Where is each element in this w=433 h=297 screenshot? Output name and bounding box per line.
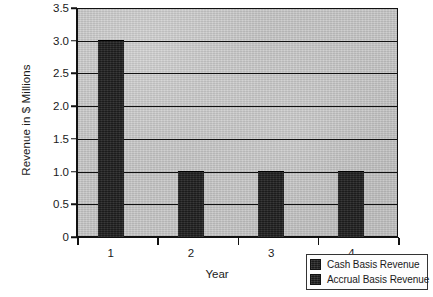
gridline xyxy=(77,73,397,74)
gridline xyxy=(77,41,397,42)
legend-swatch-icon xyxy=(310,274,321,285)
y-tick-label: 3.0 xyxy=(29,35,69,47)
legend-item: Accrual Basis Revenue xyxy=(310,272,424,287)
x-tick-mark xyxy=(318,238,320,245)
y-tick-mark xyxy=(71,73,77,75)
bar xyxy=(258,171,284,237)
y-tick-label: 0 xyxy=(29,231,69,243)
y-tick-mark xyxy=(71,105,77,107)
y-tick-label: 1.0 xyxy=(29,166,69,178)
y-tick-label: 2.5 xyxy=(29,67,69,79)
plot-area xyxy=(77,8,398,237)
y-tick-mark xyxy=(71,138,77,140)
x-tick-label: 2 xyxy=(171,247,211,259)
gridline xyxy=(77,139,397,140)
gridline xyxy=(77,8,397,9)
y-tick-mark xyxy=(71,171,77,173)
y-tick-label: 1.5 xyxy=(29,133,69,145)
y-axis-title: Revenue in $ Millions xyxy=(20,30,32,210)
y-tick-label: 0.5 xyxy=(29,198,69,210)
x-tick-mark xyxy=(77,238,79,245)
y-tick-label: 3.5 xyxy=(29,2,69,14)
x-tick-mark xyxy=(238,238,240,245)
y-tick-mark xyxy=(71,40,77,42)
x-tick-mark xyxy=(398,238,400,245)
gridline xyxy=(77,106,397,107)
legend-swatch-icon xyxy=(310,259,321,270)
y-tick-mark xyxy=(71,204,77,206)
bar xyxy=(178,171,204,237)
legend-label: Accrual Basis Revenue xyxy=(327,274,429,285)
legend-item: Cash Basis Revenue xyxy=(310,257,424,272)
y-tick-label: 2.0 xyxy=(29,100,69,112)
y-tick-mark xyxy=(71,7,77,9)
bar xyxy=(98,40,124,237)
bar-chart-figure: Revenue in $ Millions 00.51.01.52.02.53.… xyxy=(0,0,433,297)
x-tick-label: 3 xyxy=(251,247,291,259)
bar xyxy=(338,171,364,237)
x-tick-label: 1 xyxy=(91,247,131,259)
x-tick-mark xyxy=(157,238,159,245)
legend-label: Cash Basis Revenue xyxy=(327,259,419,270)
chart-legend: Cash Basis RevenueAccrual Basis Revenue xyxy=(306,254,428,290)
x-axis-title: Year xyxy=(157,268,277,280)
